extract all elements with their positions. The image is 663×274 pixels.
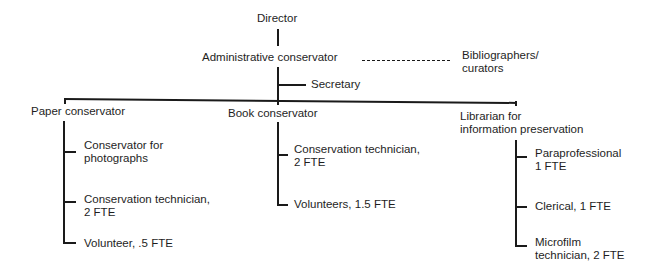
book-branch-1 xyxy=(277,154,288,156)
book-conservator-node: Book conservator xyxy=(228,107,318,120)
librarian-staff-3: Microfilm technician, 2 FTE xyxy=(535,236,624,262)
paper-branch-1 xyxy=(63,151,76,153)
bibliographers-node: Bibliographers/ curators xyxy=(462,49,539,75)
bibliographers-line1: Bibliographers/ xyxy=(462,49,539,62)
librarian-staff-1-line1: Paraprofessional xyxy=(535,147,621,160)
librarian-line1: Librarian for xyxy=(460,110,583,123)
secretary-connector xyxy=(277,84,306,86)
book-staff-1-line1: Conservation technician, xyxy=(294,143,420,156)
paper-staff-2-line2: 2 FTE xyxy=(84,206,210,219)
librarian-staff-1-line2: 1 FTE xyxy=(535,160,621,173)
librarian-staff-3-line2: technician, 2 FTE xyxy=(535,249,624,262)
paper-staff-1: Conservator for photographs xyxy=(84,139,163,165)
secretary-node: Secretary xyxy=(311,78,360,91)
book-branch-2 xyxy=(277,204,288,206)
paper-staff-2-line1: Conservation technician, xyxy=(84,193,210,206)
paper-drop xyxy=(64,98,66,104)
librarian-staff-1: Paraprofessional 1 FTE xyxy=(535,147,621,173)
paper-staff-3: Volunteer, .5 FTE xyxy=(84,237,173,250)
director-node: Director xyxy=(257,12,297,25)
librarian-branch-2 xyxy=(515,206,527,208)
book-staff-1: Conservation technician, 2 FTE xyxy=(294,143,420,169)
librarian-line2: information preservation xyxy=(460,123,583,136)
book-staff-1-line2: 2 FTE xyxy=(294,156,420,169)
admin-conservator-node: Administrative conservator xyxy=(202,51,338,64)
paper-spine xyxy=(63,121,65,244)
department-bar xyxy=(64,98,517,104)
book-spine xyxy=(277,122,279,206)
paper-branch-3 xyxy=(63,242,76,244)
librarian-drop xyxy=(515,101,517,106)
librarian-staff-3-line1: Microfilm xyxy=(535,236,624,249)
advisory-dashed-connector xyxy=(362,60,450,61)
paper-conservator-node: Paper conservator xyxy=(31,105,125,118)
librarian-branch-3 xyxy=(515,245,527,247)
librarian-node: Librarian for information preservation xyxy=(460,110,583,136)
paper-staff-2: Conservation technician, 2 FTE xyxy=(84,193,210,219)
book-staff-2: Volunteers, 1.5 FTE xyxy=(294,198,396,211)
director-connector xyxy=(277,29,279,46)
paper-branch-2 xyxy=(63,201,76,203)
librarian-staff-2: Clerical, 1 FTE xyxy=(535,200,611,213)
paper-staff-1-line2: photographs xyxy=(84,152,163,165)
librarian-branch-1 xyxy=(515,156,527,158)
paper-staff-1-line1: Conservator for xyxy=(84,139,163,152)
bibliographers-line2: curators xyxy=(462,62,539,75)
